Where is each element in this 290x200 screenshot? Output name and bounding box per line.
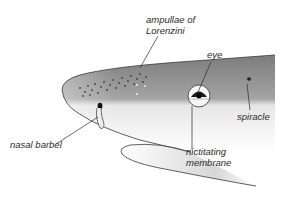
eye-label: eye <box>207 49 222 60</box>
nictitating-label-line2: membrane <box>186 157 231 168</box>
shark-illustration <box>0 0 290 200</box>
ampullae-label: ampullae of Lorenzini <box>146 14 195 36</box>
ampullae-label-line1: ampullae of <box>146 14 195 25</box>
spiracle-shape <box>247 77 251 81</box>
spiracle-label: spiracle <box>237 111 270 122</box>
nasal-barbel-label: nasal barbel <box>10 139 62 150</box>
eye-shape <box>188 85 210 107</box>
shark-head-diagram: ampullae of Lorenzini eye spiracle nasal… <box>0 0 290 200</box>
nictitating-membrane-label: nictitating membrane <box>186 146 231 168</box>
ampullae-label-line2: Lorenzini <box>146 25 195 36</box>
nictitating-label-line1: nictitating <box>186 146 231 157</box>
